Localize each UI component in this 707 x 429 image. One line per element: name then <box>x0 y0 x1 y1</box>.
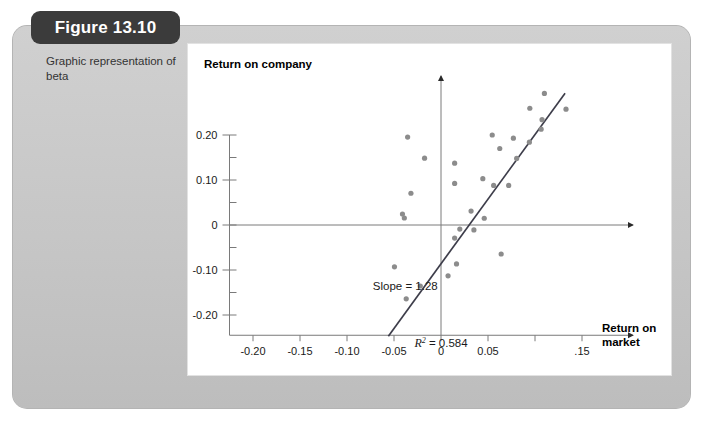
data-point <box>404 296 409 301</box>
data-point <box>405 134 410 139</box>
y-tick-label: -0.10 <box>192 264 217 276</box>
data-point <box>514 156 519 161</box>
data-point <box>563 107 568 112</box>
data-point <box>527 140 532 145</box>
r-squared-annotation: R2 = 0.584 <box>413 336 468 351</box>
x-tick-label: -0.05 <box>381 345 406 357</box>
scatter-plot-svg: -0.20-0.15-0.10-0.0500.05.150.200.100-0.… <box>188 44 671 375</box>
data-point <box>471 227 476 232</box>
data-point <box>468 208 473 213</box>
slope-annotation: Slope = 1.28 <box>373 280 438 292</box>
data-point <box>454 261 459 266</box>
data-point <box>497 146 502 151</box>
y-tick-label: 0.10 <box>196 174 217 186</box>
x-tick-label: -0.10 <box>334 345 359 357</box>
y-tick-label: 0.20 <box>196 129 217 141</box>
data-point <box>490 132 495 137</box>
data-point <box>452 181 457 186</box>
data-point <box>457 226 462 231</box>
data-point <box>539 117 544 122</box>
data-point <box>542 91 547 96</box>
data-point <box>506 183 511 188</box>
data-point <box>422 156 427 161</box>
figure-root: Figure 13.10 Graphic representation of b… <box>0 0 707 429</box>
data-point <box>527 106 532 111</box>
figure-number-label: Figure 13.10 <box>55 18 157 38</box>
data-point <box>480 176 485 181</box>
y-tick-label: 0 <box>211 219 217 231</box>
x-tick-label: .15 <box>574 345 589 357</box>
data-point <box>392 264 397 269</box>
scatter-plot: -0.20-0.15-0.10-0.0500.05.150.200.100-0.… <box>188 44 671 375</box>
data-point <box>499 251 504 256</box>
x-tick-label: -0.15 <box>287 345 312 357</box>
x-tick-label: 0.05 <box>477 345 498 357</box>
data-point <box>491 183 496 188</box>
plot-card: Return on company Return on market -0.20… <box>188 44 671 375</box>
y-tick-label: -0.20 <box>192 309 217 321</box>
figure-number-tab: Figure 13.10 <box>31 11 180 44</box>
data-point <box>402 215 407 220</box>
data-point <box>482 216 487 221</box>
x-tick-label: -0.20 <box>240 345 265 357</box>
data-point <box>452 161 457 166</box>
data-point <box>408 191 413 196</box>
data-point <box>539 127 544 132</box>
figure-caption: Graphic representation of beta <box>46 54 186 84</box>
data-point <box>452 235 457 240</box>
data-point <box>511 136 516 141</box>
data-point <box>445 273 450 278</box>
